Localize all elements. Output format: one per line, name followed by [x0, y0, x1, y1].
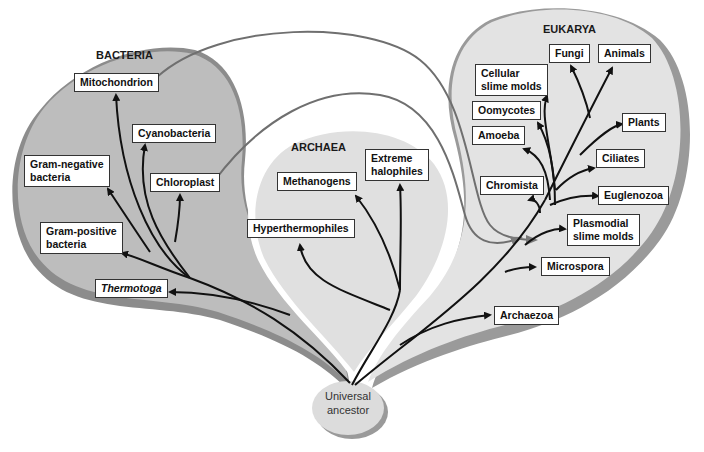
node-label-line1: Gram-positive: [46, 225, 117, 238]
node-label: Cyanobacteria: [138, 127, 210, 139]
node-cellular-slime-molds: Cellularslime molds: [475, 64, 548, 96]
domain-label-archaea: ARCHAEA: [291, 141, 346, 153]
node-label-line1: Gram-negative: [30, 158, 104, 171]
node-gram-negative-bacteria: Gram-negativebacteria: [24, 155, 110, 187]
node-label-line1: Extreme: [371, 152, 423, 165]
node-label: Plants: [628, 116, 660, 128]
node-methanogens: Methanogens: [277, 172, 357, 191]
node-chloroplast: Chloroplast: [150, 173, 220, 192]
node-gram-positive-bacteria: Gram-positivebacteria: [40, 222, 123, 254]
universal-ancestor-label: Universal ancestor: [308, 390, 388, 418]
node-extreme-halophiles: Extremehalophiles: [365, 149, 429, 181]
node-label-line2: slime molds: [573, 230, 634, 243]
node-microspora: Microspora: [541, 257, 610, 276]
node-label-line2: bacteria: [46, 238, 117, 251]
node-label: Hyperthermophiles: [253, 222, 349, 234]
node-archaezoa: Archaezoa: [494, 306, 559, 325]
node-hyperthermophiles: Hyperthermophiles: [247, 219, 355, 238]
node-label: Ciliates: [602, 152, 639, 164]
node-label: Euglenozoa: [604, 189, 663, 201]
domain-label-eukarya: EUKARYA: [543, 23, 596, 35]
node-mitochondrion: Mitochondrion: [74, 73, 159, 92]
node-thermotoga: Thermotoga: [95, 279, 168, 298]
node-label: Fungi: [555, 47, 584, 59]
node-label-line1: Plasmodial: [573, 217, 634, 230]
node-cyanobacteria: Cyanobacteria: [132, 124, 216, 143]
node-label: Thermotoga: [101, 282, 162, 294]
node-fungi: Fungi: [549, 44, 590, 63]
node-ciliates: Ciliates: [596, 149, 645, 168]
node-label-line2: bacteria: [30, 171, 104, 184]
domain-label-bacteria: BACTERIA: [96, 49, 153, 61]
node-plasmodial-slime-molds: Plasmodialslime molds: [567, 214, 640, 246]
node-label: Mitochondrion: [80, 76, 153, 88]
node-chromista: Chromista: [480, 176, 544, 195]
node-label: Amoeba: [478, 129, 519, 141]
node-label-line2: slime molds: [481, 80, 542, 93]
node-label: Animals: [604, 47, 645, 59]
node-animals: Animals: [598, 44, 651, 63]
ancestor-label-line2: ancestor: [308, 404, 388, 418]
node-euglenozoa: Euglenozoa: [598, 186, 669, 205]
node-plants: Plants: [622, 113, 666, 132]
branch-extreme-halophiles: [400, 185, 401, 290]
node-label: Microspora: [547, 260, 604, 272]
node-label: Chromista: [486, 179, 538, 191]
node-amoeba: Amoeba: [472, 126, 525, 145]
node-label-line1: Cellular: [481, 67, 542, 80]
ancestor-label-line1: Universal: [308, 390, 388, 404]
node-label: Chloroplast: [156, 176, 214, 188]
node-label: Oomycotes: [478, 104, 535, 116]
node-label: Methanogens: [283, 175, 351, 187]
node-label-line2: halophiles: [371, 165, 423, 178]
node-label: Archaezoa: [500, 309, 553, 321]
node-oomycotes: Oomycotes: [472, 101, 541, 120]
